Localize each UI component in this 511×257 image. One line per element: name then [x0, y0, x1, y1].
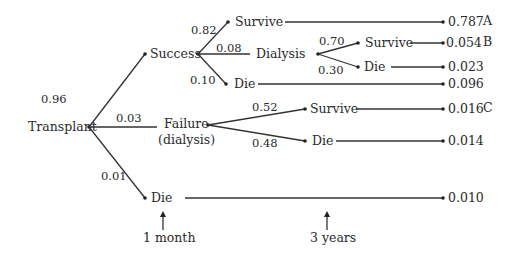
node-success-survive-label: Survive	[235, 14, 283, 29]
prob-failure-die: 0.48	[252, 136, 278, 150]
outcome-c-value: 0.016	[448, 101, 484, 116]
node-dialysis-die-dot	[356, 65, 360, 69]
node-dialysis-survive-label: Survive	[365, 35, 413, 50]
node-failure-survive-label: Survive	[310, 101, 358, 116]
arrow-up-icon	[324, 211, 330, 230]
node-failure-survive-dot	[303, 107, 307, 111]
prob-success-dialysis: 0.08	[216, 41, 242, 55]
prob-success-survive: 0.82	[191, 23, 217, 37]
outcome-b-value: 0.054	[446, 35, 482, 50]
edge-transplant-die	[89, 127, 145, 198]
node-dialysis-label: Dialysis	[256, 46, 305, 61]
outcome-success-die-dot	[441, 82, 445, 86]
outcome-b-tag: B	[483, 34, 492, 49]
node-failure-die-dot	[303, 139, 307, 143]
node-failure-label: Failure	[164, 116, 209, 131]
time-marker-3years: 3 years	[310, 230, 356, 245]
node-failure-die-label: Die	[312, 133, 333, 148]
outcome-die-1month-value: 0.010	[448, 190, 484, 205]
outcome-a-tag: A	[482, 13, 493, 28]
node-success-survive-dot	[226, 20, 230, 24]
prob-dialysis-die: 0.30	[318, 63, 344, 77]
prob-die-1month: 0.01	[101, 169, 127, 183]
node-success-dot	[143, 52, 147, 56]
node-dialysis-survive-dot	[356, 41, 360, 45]
prob-success: 0.96	[41, 92, 67, 106]
node-success-die-label: Die	[234, 76, 255, 91]
outcome-c-dot	[441, 107, 445, 111]
outcome-a-dot	[441, 20, 445, 24]
outcome-c-tag: C	[483, 100, 493, 115]
outcome-dialysis-die-dot	[441, 65, 445, 69]
arrow-up-icon	[160, 211, 166, 230]
node-failure-sublabel: (dialysis)	[158, 132, 215, 147]
outcome-b-dot	[441, 41, 445, 45]
prob-success-die: 0.10	[190, 73, 216, 87]
time-marker-1month: 1 month	[143, 230, 195, 245]
decision-tree-diagram: Transplant 0.96 Success 0.03 Failure (di…	[0, 0, 511, 257]
outcome-die-1month-dot	[441, 196, 445, 200]
root-transplant-label: Transplant	[28, 119, 97, 134]
outcome-success-die-value: 0.096	[448, 76, 484, 91]
node-die-1month-dot	[143, 196, 147, 200]
prob-dialysis-survive: 0.70	[319, 34, 345, 48]
outcome-a-value: 0.787	[448, 14, 484, 29]
prob-failure-survive: 0.52	[252, 100, 278, 114]
node-dialysis-die-label: Die	[364, 59, 385, 74]
outcome-failure-die-value: 0.014	[448, 133, 484, 148]
outcome-dialysis-die-value: 0.023	[448, 59, 484, 74]
node-die-1month-label: Die	[151, 190, 172, 205]
outcome-failure-die-dot	[441, 139, 445, 143]
node-success-label: Success	[150, 46, 201, 61]
node-success-die-dot	[224, 82, 228, 86]
prob-failure: 0.03	[116, 111, 142, 125]
